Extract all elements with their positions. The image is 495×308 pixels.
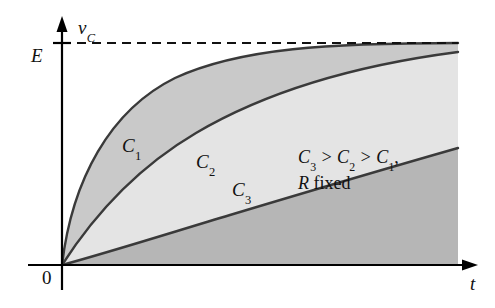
- annotation-line-2: R fixed: [298, 172, 399, 195]
- annotation-c3-subscript: 3: [310, 160, 316, 174]
- annotation-gt-1: > C: [316, 147, 349, 167]
- y-axis-arrow-icon: [57, 16, 68, 32]
- annotation-gt-2: > C: [355, 147, 388, 167]
- annotation-c3-base: C: [298, 147, 310, 167]
- y-axis-label-subscript: C: [87, 31, 95, 45]
- curve-label-c1: C1: [122, 136, 141, 159]
- annotation-comma: ,: [394, 147, 399, 167]
- capacitor-charging-figure: vC E t 0 C1 C2 C3 C3 > C2 > C1, R fixed: [0, 0, 495, 308]
- curve-label-c2-subscript: 2: [209, 165, 215, 179]
- curve-label-c2-base: C: [196, 151, 209, 172]
- y-axis-label-base: v: [78, 17, 86, 38]
- curve-label-c3: C3: [232, 180, 251, 203]
- x-axis-label: t: [470, 274, 475, 293]
- curve-label-c1-subscript: 1: [135, 149, 141, 163]
- figure-annotation: C3 > C2 > C1, R fixed: [298, 146, 399, 195]
- y-axis-label: vC: [78, 18, 95, 41]
- annotation-c2-subscript: 2: [349, 160, 355, 174]
- x-axis-arrow-icon: [462, 260, 478, 271]
- curve-label-c3-subscript: 3: [245, 193, 251, 207]
- annotation-c1-subscript: 1: [388, 160, 394, 174]
- curve-label-c1-base: C: [122, 135, 135, 156]
- annotation-fixed-text: fixed: [309, 173, 350, 193]
- e-axis-tick-label: E: [31, 46, 43, 65]
- chart-canvas: [0, 0, 495, 308]
- origin-label: 0: [42, 268, 52, 287]
- curve-label-c2: C2: [196, 152, 215, 175]
- annotation-r-symbol: R: [298, 173, 309, 193]
- annotation-line-1: C3 > C2 > C1,: [298, 146, 399, 172]
- curve-label-c3-base: C: [232, 179, 245, 200]
